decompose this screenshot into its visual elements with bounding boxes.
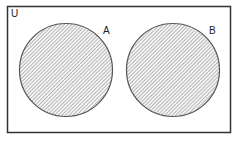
universe-label: U [11,8,18,19]
circle-a [20,24,113,117]
set-a: A [20,24,113,117]
set-a-label: A [103,25,110,36]
venn-diagram: U A B [0,0,236,142]
set-b-label: B [209,25,216,36]
circle-b [127,24,220,117]
set-b: B [127,24,220,117]
